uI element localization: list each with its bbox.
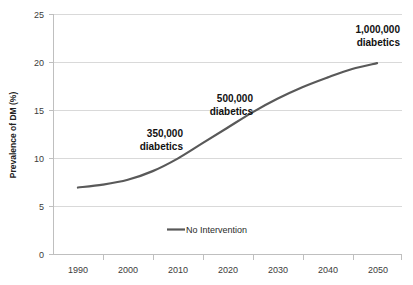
x-tick-label-2040: 2040 [318, 265, 338, 275]
x-tick-label-2050: 2050 [368, 265, 388, 275]
annotation-1000000-value: 1,000,000 [356, 24, 401, 35]
plot-area-background [53, 14, 402, 255]
prevalence-line-chart: 25 20 15 10 5 0 1990 2000 2010 2020 2030… [0, 0, 413, 285]
x-tick-label-2020: 2020 [218, 265, 238, 275]
chart-container: 25 20 15 10 5 0 1990 2000 2010 2020 2030… [0, 0, 413, 285]
x-tick-label-2010: 2010 [168, 265, 188, 275]
annotation-1000000-unit: diabetics [357, 37, 401, 48]
y-axis-title: Prevalence of DM (%) [8, 92, 18, 179]
y-tick-label-15: 15 [34, 106, 44, 116]
y-tick-label-5: 5 [39, 202, 44, 212]
annotation-350000-value: 350,000 [147, 128, 184, 139]
x-tick-label-2000: 2000 [118, 265, 138, 275]
y-tick-label-0: 0 [39, 250, 44, 260]
x-tick-label-1990: 1990 [68, 265, 88, 275]
y-tick-label-10: 10 [34, 154, 44, 164]
annotation-500000-value: 500,000 [217, 93, 254, 104]
y-tick-label-25: 25 [34, 10, 44, 20]
annotation-500000-unit: diabetics [210, 106, 254, 117]
y-axis-ticks [49, 15, 53, 255]
annotation-350000-unit: diabetics [140, 141, 184, 152]
y-tick-label-20: 20 [34, 58, 44, 68]
x-axis-ticks [104, 255, 402, 260]
x-tick-label-2030: 2030 [268, 265, 288, 275]
legend-label-no-intervention: No Intervention [186, 225, 247, 235]
